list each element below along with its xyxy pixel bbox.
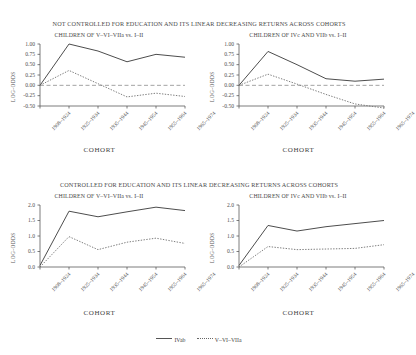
- series-line-ivab: [40, 44, 185, 85]
- series-line-ivab: [239, 51, 384, 85]
- x-axis-label-top-left: COHORT: [0, 146, 199, 154]
- chart-bottom-right: CHILDREN OF IVc AND VIIb vs. I–II LOG-OD…: [199, 193, 398, 325]
- plot-top-right-svg: [199, 32, 398, 162]
- series-line-ivab: [239, 221, 384, 266]
- plot-bottom-right-svg: [199, 193, 398, 325]
- legend-swatch-solid-icon: [156, 338, 172, 339]
- legend-item-ivab: IVab: [156, 336, 185, 343]
- x-axis-label-top-right: COHORT: [199, 146, 398, 154]
- plot-bottom-left-svg: [0, 193, 199, 325]
- x-axis-label-bottom-right: COHORT: [199, 309, 398, 317]
- chart-top-right: CHILDREN OF IVc AND VIIb vs. I–II LOG-OD…: [199, 32, 398, 162]
- chart-bottom-left: CHILDREN OF V–VI–VIIa vs. I–II LOG-ODDS …: [0, 193, 199, 325]
- plot-top-left-svg: [0, 32, 199, 162]
- series-line-v-vi-viia: [239, 245, 384, 267]
- series-line-v-vi-viia: [40, 237, 185, 267]
- figure-legend: IVab V–VI–VIIa: [0, 336, 398, 343]
- series-line-v-vi-viia: [40, 70, 185, 96]
- x-axis-label-bottom-left: COHORT: [0, 309, 199, 317]
- legend-label-ivab: IVab: [174, 337, 185, 343]
- panel-title-controlled: CONTROLLED FOR EDUCATION AND ITS LINEAR …: [0, 181, 398, 188]
- legend-swatch-dotted-icon: [197, 338, 213, 339]
- panel-title-not-controlled: NOT CONTROLLED FOR EDUCATION AND ITS LIN…: [0, 20, 398, 27]
- series-line-v-vi-viia: [239, 74, 384, 108]
- legend-label-v-vi-viia: V–VI–VIIa: [215, 337, 242, 343]
- series-line-ivab: [40, 207, 185, 265]
- chart-top-left: CHILDREN OF V–VI–VIIa vs. I–II LOG-ODDS …: [0, 32, 199, 162]
- legend-item-v-vi-viia: V–VI–VIIa: [197, 336, 242, 343]
